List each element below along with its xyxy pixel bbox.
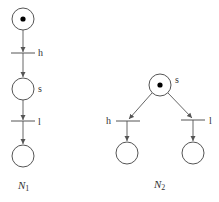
n1-label-s: s (38, 83, 42, 94)
n1-place-final (12, 145, 34, 167)
token-icon (20, 16, 25, 21)
n2-place-right (182, 142, 204, 164)
n2-net-label: N2 (153, 178, 165, 192)
n2-place-left (116, 142, 138, 164)
n1-place-initial (12, 8, 34, 30)
net-n1: h s l N1 (11, 8, 43, 193)
n1-place-s (12, 78, 34, 100)
n2-label-l: l (209, 115, 212, 126)
n2-arc-s-l (168, 93, 192, 118)
n2-label-h: h (106, 115, 111, 126)
n2-label-s: s (175, 74, 179, 85)
n1-label-l: l (38, 116, 41, 127)
n1-net-label: N1 (17, 179, 29, 193)
petri-net-diagram: h s l N1 s h l (0, 0, 219, 202)
token-icon (157, 82, 162, 87)
net-n2: s h l N2 (106, 74, 212, 192)
n1-label-h: h (38, 47, 43, 58)
n2-arc-s-h (129, 93, 152, 119)
n2-place-s (149, 74, 171, 96)
